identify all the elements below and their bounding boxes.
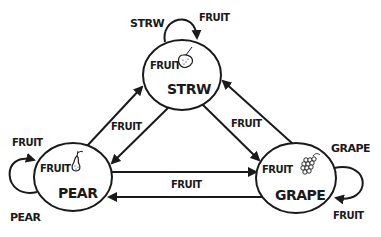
arrow-pear-to-strw	[87, 87, 142, 146]
loop-input-label: FRUIT	[199, 12, 230, 23]
loop-arrow	[334, 167, 363, 199]
loop-output-label: GRAPE	[331, 142, 370, 155]
state-diagram: STRW FRUIT FRUIT PEAR GRAPE FRUIT FRUIT …	[0, 0, 381, 237]
loop-output-label: PEAR	[10, 211, 42, 224]
edge-pear-grape: FRUIT	[109, 172, 262, 197]
state-grape: FRUIT GRAPE	[256, 143, 336, 213]
loop-input-label: FRUIT	[333, 210, 364, 221]
strw-self-loop: STRW FRUIT	[130, 12, 230, 42]
state-input-label: FRUIT	[150, 60, 181, 71]
state-output-label: PEAR	[58, 185, 98, 201]
state-output-label: GRAPE	[275, 187, 325, 203]
state-strw: FRUIT STRW	[143, 40, 221, 110]
loop-output-label: STRW	[130, 17, 164, 30]
grape-self-loop: GRAPE FRUIT	[331, 142, 370, 221]
state-pear: FRUIT PEAR	[34, 143, 112, 211]
state-circle	[143, 40, 221, 110]
edge-label: FRUIT	[231, 118, 262, 129]
state-input-label: FRUIT	[40, 163, 71, 174]
state-output-label: STRW	[167, 81, 211, 97]
edge-label: FRUIT	[171, 179, 202, 190]
arrow-strw-to-pear	[112, 108, 168, 163]
loop-arrow	[10, 159, 37, 193]
state-input-label: FRUIT	[262, 164, 293, 175]
loop-arrow	[165, 19, 197, 42]
arrow-strw-to-grape	[202, 104, 259, 160]
edge-label: FRUIT	[111, 121, 142, 132]
loop-input-label: FRUIT	[12, 137, 43, 148]
